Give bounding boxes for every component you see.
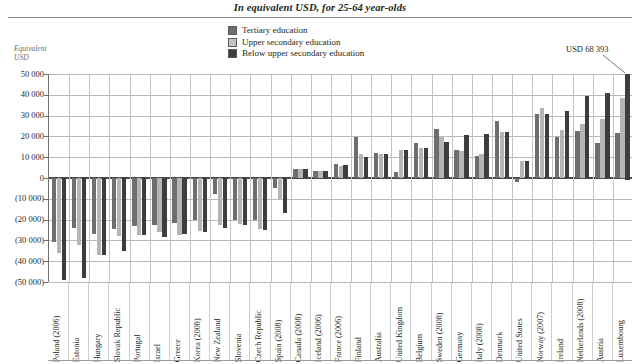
bar [203,178,207,232]
y-tick-label: 50 000 [0,70,44,79]
bar [278,178,282,199]
x-tick-label: Greece [174,339,182,362]
x-label-separator [68,283,69,361]
y-tick-label: 30 000 [0,111,44,120]
y-tick-mark [44,136,48,137]
bar [92,178,96,234]
bar [374,153,378,178]
x-label-separator [370,283,371,361]
y-tick-mark [44,74,48,75]
bar [152,178,156,225]
bar [253,178,257,220]
bar [62,178,66,280]
bar [535,114,539,178]
x-tick-label: Australia [375,332,383,362]
x-label-separator [592,283,593,361]
bar [177,178,181,235]
bar [505,132,509,178]
y-tick-label: 40 000 [0,90,44,99]
bar [580,124,584,178]
y-tick-mark [44,240,48,241]
x-label-separator [149,283,150,361]
bar [394,172,398,178]
bar [339,166,343,178]
bar [72,178,76,228]
bar [565,111,569,178]
bar [545,114,549,178]
bar [102,178,106,255]
bar [334,164,338,178]
bar [318,171,322,178]
bar [243,178,247,225]
bar [238,178,242,224]
y-tick-label: 10 000 [0,153,44,162]
x-label-separator [350,283,351,361]
x-axis-labels: Poland (2006)EstoniaHungarySlovak Republ… [48,283,632,364]
bar [223,178,227,228]
bar [384,154,388,178]
bar [193,178,197,220]
bar [77,178,81,245]
x-tick-label: France (2006) [335,316,343,362]
bar [343,165,347,178]
x-tick-label: Spain (2008) [275,319,283,362]
bar [424,148,428,178]
bar [323,171,327,178]
bar [464,135,468,178]
bar [172,178,176,223]
x-label-separator [249,283,250,361]
y-tick-mark [44,157,48,158]
bar [283,178,287,213]
bar [132,178,136,226]
x-tick-label: Denmark [496,332,504,362]
bar [479,154,483,178]
bar [419,148,423,178]
x-label-separator [511,283,512,361]
x-label-separator [229,283,230,361]
bar [137,178,141,235]
bar [625,74,629,180]
x-tick-label: Norway (2007) [536,312,544,362]
bar [615,133,619,178]
bar [495,121,499,178]
y-tick-label: 0 [0,174,44,183]
bar [605,93,609,178]
bar [404,150,408,178]
bar [575,131,579,178]
x-tick-label: Netherlands (2008) [577,299,585,362]
x-label-separator [471,283,472,361]
y-tick-label: (20 000) [0,215,44,224]
x-label-separator [129,283,130,361]
y-tick-mark [44,220,48,221]
x-label-separator [551,283,552,361]
bar [439,137,443,178]
bar [399,150,403,178]
x-label-separator [451,283,452,361]
x-label-separator [491,283,492,361]
bar [540,108,544,178]
bar [444,142,448,178]
x-tick-label: Slovenia [234,333,242,362]
x-label-separator [612,283,613,361]
y-tick-mark [44,261,48,262]
bar [263,178,267,230]
bar [273,178,277,188]
x-tick-label: Poland (2006) [53,315,61,362]
x-tick-label: United States [516,318,524,362]
bar [303,169,307,178]
bar [359,154,363,178]
bar [364,157,368,178]
x-tick-label: New Zealand [214,318,222,362]
bar [585,96,589,178]
x-label-separator [169,283,170,361]
bar [379,154,383,178]
bar [500,132,504,178]
bar [475,156,479,178]
bar [182,178,186,234]
y-tick-mark [44,199,48,200]
y-tick-mark [44,178,48,179]
bar [434,129,438,178]
y-tick-label: (10 000) [0,194,44,203]
bar [162,178,166,237]
bar [52,178,56,242]
